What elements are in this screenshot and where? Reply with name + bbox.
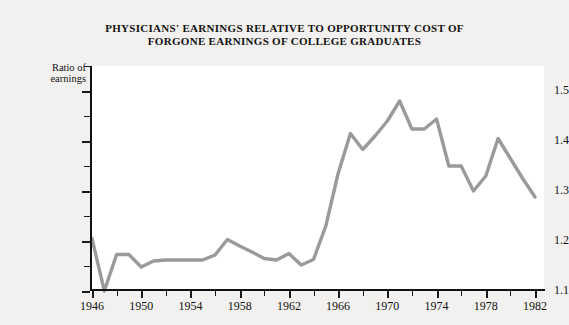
- y-axis-tick-label: 1.2: [493, 233, 569, 248]
- x-axis-tick-label: 1974: [414, 299, 460, 314]
- y-axis-tick-label: 1.4: [493, 133, 569, 148]
- x-axis-major-tick: [190, 291, 192, 298]
- y-axis-tick-label: 1.5: [493, 83, 569, 98]
- y-axis-major-tick: [82, 291, 90, 293]
- y-axis-minor-tick: [84, 266, 90, 267]
- x-axis-minor-tick: [461, 291, 462, 296]
- x-axis-tick-label: 1954: [167, 299, 213, 314]
- y-axis-line: [90, 66, 92, 291]
- y-axis-minor-tick: [84, 216, 90, 217]
- chart-title-line-2: FORGONE EARNINGS OF COLLEGE GRADUATES: [0, 35, 569, 48]
- y-axis-title-line-1: Ratio of: [8, 62, 86, 73]
- plot-area: [92, 66, 544, 291]
- y-axis-minor-tick: [84, 166, 90, 167]
- x-axis-minor-tick: [117, 291, 118, 296]
- y-axis-minor-tick: [84, 66, 90, 67]
- x-axis-tick-label: 1982: [512, 299, 558, 314]
- x-axis-major-tick: [387, 291, 389, 298]
- x-axis-tick-label: 1978: [463, 299, 509, 314]
- x-axis-tick-label: 1950: [118, 299, 164, 314]
- figure-page: PHYSICIANS' EARNINGS RELATIVE TO OPPORTU…: [0, 0, 569, 325]
- y-axis-major-tick: [82, 191, 90, 193]
- chart-title-line-1: PHYSICIANS' EARNINGS RELATIVE TO OPPORTU…: [0, 22, 569, 35]
- x-axis-major-tick: [141, 291, 143, 298]
- x-axis-tick-label: 1970: [364, 299, 410, 314]
- y-axis-tick-label: 1.1: [493, 283, 569, 298]
- x-axis-tick-label: 1946: [69, 299, 115, 314]
- chart-title: PHYSICIANS' EARNINGS RELATIVE TO OPPORTU…: [0, 22, 569, 48]
- x-axis-minor-tick: [314, 291, 315, 296]
- x-axis-line: [90, 289, 545, 291]
- y-axis-major-tick: [82, 241, 90, 243]
- x-axis-minor-tick: [166, 291, 167, 296]
- x-axis-tick-label: 1966: [315, 299, 361, 314]
- x-axis-major-tick: [338, 291, 340, 298]
- y-axis-major-tick: [82, 141, 90, 143]
- x-axis-major-tick: [289, 291, 291, 298]
- y-axis-tick-label: 1.3: [493, 183, 569, 198]
- x-axis-minor-tick: [264, 291, 265, 296]
- x-axis-minor-tick: [363, 291, 364, 296]
- y-axis-title-line-2: earnings: [8, 73, 86, 84]
- earnings-ratio-line-series: [92, 66, 544, 291]
- x-axis-tick-label: 1962: [266, 299, 312, 314]
- x-axis-major-tick: [240, 291, 242, 298]
- x-axis-major-tick: [437, 291, 439, 298]
- x-axis-major-tick: [486, 291, 488, 298]
- y-axis-minor-tick: [84, 116, 90, 117]
- y-axis-title: Ratio of earnings: [8, 62, 86, 84]
- y-axis-major-tick: [82, 91, 90, 93]
- series-polyline: [92, 101, 535, 291]
- x-axis-major-tick: [92, 291, 94, 298]
- x-axis-tick-label: 1958: [217, 299, 263, 314]
- x-axis-minor-tick: [215, 291, 216, 296]
- x-axis-minor-tick: [412, 291, 413, 296]
